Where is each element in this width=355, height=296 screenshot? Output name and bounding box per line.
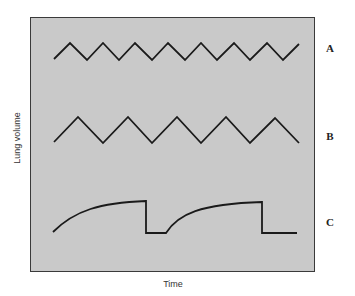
y-axis-label: Lung volume: [12, 112, 22, 164]
trace-label-a: A: [326, 42, 334, 54]
traces-layer: [0, 0, 355, 296]
x-axis-label: Time: [163, 279, 183, 289]
trace-label-b: B: [326, 130, 333, 142]
trace-c-curved-rise-drop: [53, 201, 297, 233]
trace-b-slow-deep: [54, 117, 299, 143]
trace-label-c: C: [326, 216, 334, 228]
lung-volume-diagram: Lung volume Time A B C: [0, 0, 355, 296]
trace-a-rapid-shallow: [54, 43, 299, 60]
